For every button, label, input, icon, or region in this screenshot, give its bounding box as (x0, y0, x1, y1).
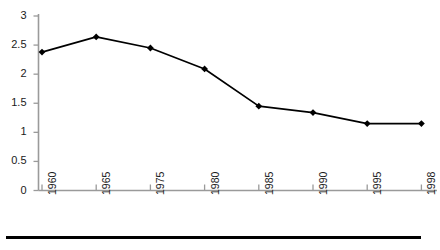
x-axis-tick-label: 1995 (372, 171, 383, 194)
y-axis-tick-label: 1.5 (1, 97, 27, 108)
data-point-marker (39, 49, 46, 56)
axis-lines (39, 14, 438, 191)
data-line (42, 37, 421, 124)
data-point-marker (147, 45, 154, 52)
data-point-marker (364, 120, 371, 127)
y-axis-tick-label: 2.5 (1, 39, 27, 50)
data-markers (39, 34, 425, 127)
x-axis-tick-label: 1985 (264, 171, 275, 194)
y-axis-tick-label: 1 (1, 126, 27, 137)
x-axis-ticks (42, 185, 421, 191)
x-axis-tick-label: 1998 (426, 171, 437, 194)
x-axis-tick-label: 1965 (101, 171, 112, 194)
data-point-marker (93, 34, 100, 41)
data-point-marker (310, 109, 317, 116)
y-axis-tick-label: 0.5 (1, 155, 27, 166)
footer-rule (6, 236, 421, 239)
y-axis-tick-label: 3 (1, 10, 27, 21)
data-point-marker (418, 120, 425, 127)
x-axis-tick-label: 1990 (318, 171, 329, 194)
chart-plot-area (0, 0, 440, 250)
x-axis-tick-label: 1960 (47, 171, 58, 194)
x-axis-tick-label: 1980 (210, 171, 221, 194)
y-axis-tick-label: 0 (1, 185, 27, 196)
y-axis-tick-label: 2 (1, 68, 27, 79)
line-chart: 00.511.522.53 19601965197519801985199019… (0, 0, 440, 250)
x-axis-tick-label: 1975 (155, 171, 166, 194)
